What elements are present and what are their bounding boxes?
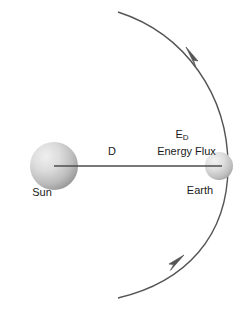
flux-symbol-base: E	[175, 128, 182, 140]
earth-label: Earth	[163, 185, 237, 196]
energy-flux-name-label: Energy Flux	[144, 146, 229, 157]
sun-label: Sun	[0, 187, 84, 198]
energy-flux-symbol-label: ED	[152, 129, 212, 140]
flux-symbol-subscript: D	[183, 133, 189, 142]
distance-label: D	[104, 146, 120, 157]
diagram-canvas: D ED Energy Flux Sun Earth	[0, 0, 247, 310]
